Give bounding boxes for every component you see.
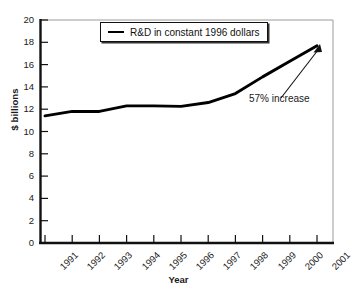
y-tick-marks (41, 20, 48, 243)
chart-legend: R&D in constant 1996 dollars (100, 22, 268, 42)
y-tick-label: 0 (8, 238, 34, 248)
y-tick-label: 4 (8, 193, 34, 203)
y-tick-label: 6 (8, 171, 34, 181)
x-axis-title: Year (0, 274, 357, 285)
line-chart-plot (0, 0, 357, 292)
y-tick-label: 18 (8, 37, 34, 47)
y-tick-label: 20 (8, 15, 34, 25)
annotation-label: 57% increase (249, 93, 310, 104)
y-axis-title: $ billions (9, 65, 20, 155)
annotation-arrow (281, 44, 322, 98)
data-series-line (45, 46, 317, 116)
chart-figure: 0 2 4 6 8 10 12 14 16 18 20 1991 1992 19… (0, 0, 357, 292)
y-tick-label: 2 (8, 216, 34, 226)
legend-line-swatch-icon (108, 31, 124, 33)
legend-entry-label: R&D in constant 1996 dollars (130, 27, 260, 38)
